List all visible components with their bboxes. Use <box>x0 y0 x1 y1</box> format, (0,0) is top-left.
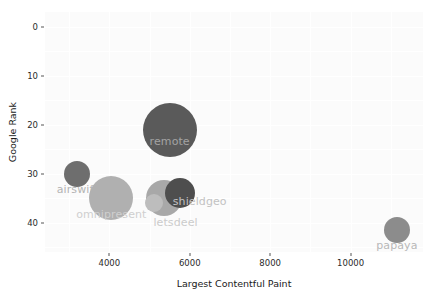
gridline-horizontal <box>45 223 423 224</box>
y-axis-tick-mark <box>41 75 44 76</box>
data-point-bubble[interactable] <box>165 178 195 208</box>
data-point-bubble[interactable] <box>145 194 163 212</box>
data-point-bubble[interactable] <box>64 161 90 187</box>
x-axis-tick-label: 8000 <box>259 258 281 268</box>
x-axis-tick-mark <box>189 253 190 256</box>
gridline-horizontal <box>45 76 423 77</box>
gridline-horizontal <box>45 125 423 126</box>
x-axis-tick-mark <box>270 253 271 256</box>
y-axis-label: Google Rank <box>7 102 18 162</box>
x-axis-tick-mark <box>350 253 351 256</box>
x-axis-tick-label: 10000 <box>337 258 364 268</box>
y-axis-tick-mark <box>41 173 44 174</box>
x-axis-label: Largest Contentful Paint <box>45 278 423 289</box>
gridline-horizontal-minor <box>45 100 423 101</box>
gridline-horizontal <box>45 174 423 175</box>
x-axis-tick-mark <box>109 253 110 256</box>
scatter-chart: airswiftomnipresentremoteletsdeelshieldg… <box>0 0 430 298</box>
y-axis-tick-mark <box>41 124 44 125</box>
gridline-vertical-minor <box>230 12 231 252</box>
gridline-vertical-minor <box>69 12 70 252</box>
data-point-bubble[interactable] <box>384 217 410 243</box>
x-axis-tick-label: 4000 <box>99 258 121 268</box>
gridline-vertical <box>270 12 271 252</box>
gridline-horizontal-minor <box>45 51 423 52</box>
gridline-vertical <box>351 12 352 252</box>
data-point-bubble[interactable] <box>143 103 197 157</box>
x-axis-tick-label: 6000 <box>179 258 201 268</box>
data-point-bubble[interactable] <box>89 176 133 220</box>
y-axis-label-container: Google Rank <box>10 0 24 264</box>
gridline-vertical-minor <box>391 12 392 252</box>
y-axis-tick-mark <box>41 26 44 27</box>
y-axis-tick-mark <box>41 222 44 223</box>
gridline-horizontal-minor <box>45 149 423 150</box>
gridline-horizontal <box>45 27 423 28</box>
plot-area: airswiftomnipresentremoteletsdeelshieldg… <box>45 12 423 252</box>
gridline-vertical-minor <box>310 12 311 252</box>
gridline-horizontal-minor <box>45 247 423 248</box>
